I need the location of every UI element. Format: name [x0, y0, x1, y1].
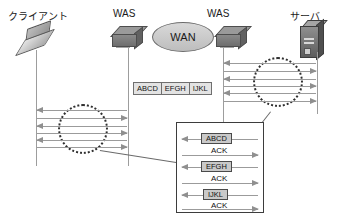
detail-callout: ABCD ACK EFGH ACK IJKL ACK	[176, 122, 264, 213]
laptop-icon	[20, 25, 52, 51]
packet-strip: ABCD EFGH IJKL	[133, 82, 212, 95]
detail-label-ack-1: ACK	[211, 146, 227, 155]
server-tower-icon	[300, 20, 324, 58]
node-label-was-left: WAS	[113, 8, 135, 19]
arrow-right-group-6	[224, 101, 316, 102]
cloud-ellipse-icon: WAN	[152, 22, 214, 52]
server-brick-icon-left	[112, 26, 144, 48]
detail-arrow-6	[182, 209, 258, 210]
server-brick-icon-right	[216, 26, 248, 48]
detail-arrow-4	[182, 183, 258, 184]
detail-label-efgh: EFGH	[201, 161, 232, 172]
detail-label-ack-2: ACK	[211, 174, 227, 183]
arrow-left-group-5	[37, 140, 127, 141]
arrow-left-group-1	[37, 110, 127, 111]
brick-front	[216, 34, 241, 47]
detail-label-ijkl: IJKL	[203, 189, 228, 200]
timeline-was-left	[128, 48, 129, 166]
node-label-was-right: WAS	[207, 8, 229, 19]
arrow-right-group-5	[224, 93, 316, 94]
network-diagram: クライアント WAS WAS サーバ WAN ABCD E	[0, 0, 338, 224]
arrow-right-group-3	[224, 79, 316, 80]
arrow-left-group-4	[37, 133, 127, 134]
wan-label: WAN	[170, 31, 195, 43]
detail-arrow-2	[182, 155, 258, 156]
focus-circle-right	[253, 57, 303, 107]
packet-cell-ijkl: IJKL	[190, 83, 211, 94]
arrow-left-group-6	[37, 147, 127, 148]
detail-label-abcd-1: ABCD	[201, 133, 232, 144]
brick-front	[112, 34, 137, 47]
packet-cell-abcd: ABCD	[134, 83, 162, 94]
packet-cell-efgh: EFGH	[162, 83, 190, 94]
arrow-right-group-1	[224, 63, 316, 64]
leader-line-left	[100, 150, 181, 164]
arrow-right-group-4	[224, 86, 316, 87]
arrow-left-group-3	[37, 126, 127, 127]
timeline-server	[317, 52, 318, 114]
arrow-right-group-2	[224, 71, 316, 72]
node-label-client: クライアント	[8, 8, 68, 23]
arrow-left-group-2	[37, 118, 127, 119]
